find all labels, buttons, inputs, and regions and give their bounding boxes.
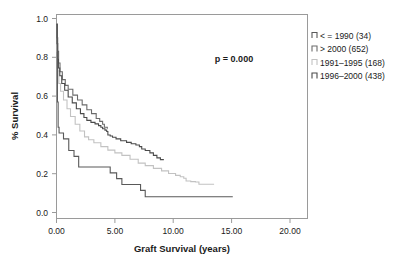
y-axis-title: % Survival bbox=[9, 92, 20, 140]
legend-item-label: > 2000 (652) bbox=[320, 44, 369, 54]
x-tick-label: 15.00 bbox=[221, 226, 243, 236]
x-tick-label: 10.00 bbox=[163, 226, 185, 236]
x-axis-title: Graft Survival (years) bbox=[134, 243, 230, 254]
x-tick-label: 20.00 bbox=[279, 226, 301, 236]
p-value-annotation: p = 0.000 bbox=[215, 54, 253, 64]
y-tick-label: 1.0 bbox=[36, 14, 48, 24]
legend-item-label: < = 1990 (34) bbox=[320, 31, 371, 41]
y-tick-label: 0.2 bbox=[36, 169, 48, 179]
y-tick-label: 0.8 bbox=[36, 52, 48, 62]
y-tick-label: 0.4 bbox=[36, 130, 48, 140]
survival-chart-figure: 1.0 0.8 0.6 0.4 0.2 0.0 0.00 5.00 10.00 … bbox=[0, 0, 401, 271]
legend-item-label: 1991–1995 (168) bbox=[320, 58, 385, 68]
x-tick-label: 0.00 bbox=[48, 226, 65, 236]
y-tick-label: 0.0 bbox=[36, 208, 48, 218]
legend-item-label: 1996–2000 (438) bbox=[320, 71, 385, 81]
x-tick-label: 5.00 bbox=[107, 226, 124, 236]
chart-canvas: 1.0 0.8 0.6 0.4 0.2 0.0 0.00 5.00 10.00 … bbox=[0, 0, 401, 271]
y-tick-label: 0.6 bbox=[36, 91, 48, 101]
